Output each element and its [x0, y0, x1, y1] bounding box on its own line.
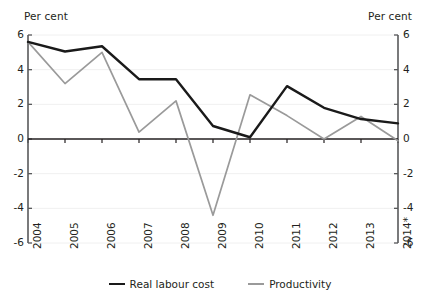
right-tick-label: -2 — [403, 168, 413, 179]
x-tick-label: 2009 — [217, 222, 228, 249]
x-tick-label: 2008 — [180, 222, 191, 249]
x-tick-label: 2010 — [254, 222, 265, 249]
x-tick-label: 2004 — [32, 222, 43, 249]
left-tick-label: 0 — [17, 133, 24, 144]
x-tick-label: 2012 — [328, 222, 339, 249]
legend-swatch-icon — [248, 283, 264, 285]
legend-swatch-icon — [109, 283, 125, 285]
right-tick-label: 0 — [403, 133, 410, 144]
left-tick-label: -4 — [14, 202, 24, 213]
left-tick-label: -6 — [14, 237, 24, 248]
legend-item: Real labour cost — [109, 278, 215, 290]
right-tick-label: 6 — [403, 29, 410, 40]
left-tick-label: 6 — [17, 29, 24, 40]
right-tick-label: 4 — [403, 64, 410, 75]
x-tick-label: 2011 — [291, 222, 302, 249]
chart-legend: Real labour costProductivity — [0, 278, 440, 290]
x-tick-label: 2013 — [365, 222, 376, 249]
x-tick-label: 2005 — [69, 222, 80, 249]
plot-area — [0, 0, 440, 297]
x-tick-label: 2007 — [143, 222, 154, 249]
right-tick-label: -4 — [403, 202, 413, 213]
series-line-productivity — [28, 42, 398, 215]
legend-item: Productivity — [248, 278, 331, 290]
chart-container: Per cent Per cent 6420-2-4-6 6420-2-4-6 … — [0, 0, 440, 297]
left-tick-label: -2 — [14, 168, 24, 179]
series-line-real-labour-cost — [28, 42, 398, 137]
x-tick-label: 2014* — [402, 217, 413, 249]
left-tick-label: 2 — [17, 98, 24, 109]
right-tick-label: 2 — [403, 98, 410, 109]
x-tick-label: 2006 — [106, 222, 117, 249]
legend-label: Productivity — [269, 278, 331, 290]
left-tick-label: 4 — [17, 64, 24, 75]
legend-label: Real labour cost — [130, 278, 215, 290]
